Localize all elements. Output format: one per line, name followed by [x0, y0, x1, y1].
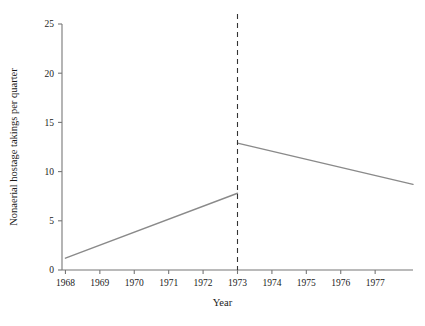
x-tick-label: 1975 — [297, 278, 316, 288]
chart-figure: 0510152025196819691970197119721973197419… — [0, 0, 425, 326]
pre-intervention-trend — [65, 193, 237, 258]
axes — [58, 24, 413, 274]
x-tick-label: 1970 — [125, 278, 144, 288]
x-tick-label: 1971 — [159, 278, 178, 288]
post-intervention-trend — [238, 143, 414, 184]
x-tick-label: 1973 — [228, 278, 247, 288]
y-tick-label: 20 — [45, 69, 55, 79]
y-tick-label: 0 — [49, 265, 54, 275]
x-axis-title: Year — [213, 297, 233, 308]
scatter-plot: 0510152025196819691970197119721973197419… — [0, 0, 425, 326]
x-tick-label: 1976 — [331, 278, 350, 288]
y-tick-label: 5 — [49, 216, 54, 226]
x-tick-label: 1974 — [262, 278, 281, 288]
y-tick-label: 10 — [45, 167, 55, 177]
x-tick-label: 1972 — [194, 278, 213, 288]
y-tick-label: 15 — [45, 118, 55, 128]
y-axis-title: Nonaerial hostage takings per quarter — [8, 68, 19, 226]
trend-lines — [65, 143, 413, 258]
x-tick-label: 1977 — [366, 278, 385, 288]
y-tick-label: 25 — [45, 19, 55, 29]
x-tick-label: 1969 — [90, 278, 109, 288]
axis-labels: 0510152025196819691970197119721973197419… — [8, 19, 385, 308]
x-tick-label: 1968 — [56, 278, 75, 288]
